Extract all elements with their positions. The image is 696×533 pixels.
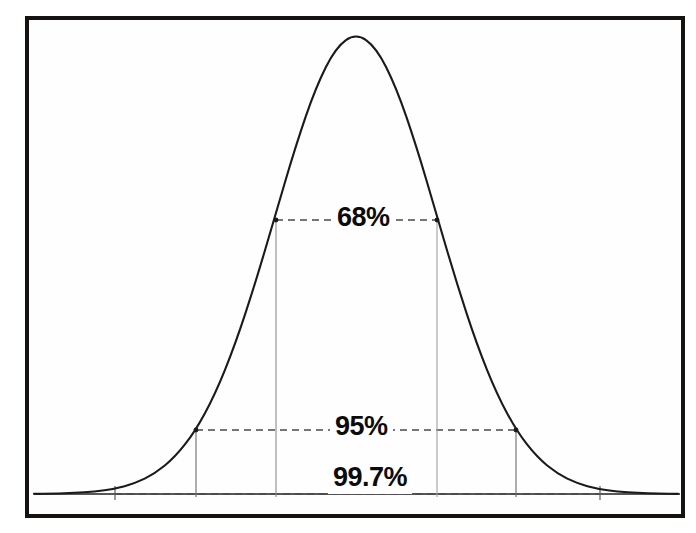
- band-label-95: 95%: [330, 411, 393, 443]
- normal-distribution-figure: 68% 95% 99.7%: [0, 0, 696, 533]
- band-label-997: 99.7%: [328, 462, 412, 494]
- band-label-68: 68%: [332, 202, 395, 234]
